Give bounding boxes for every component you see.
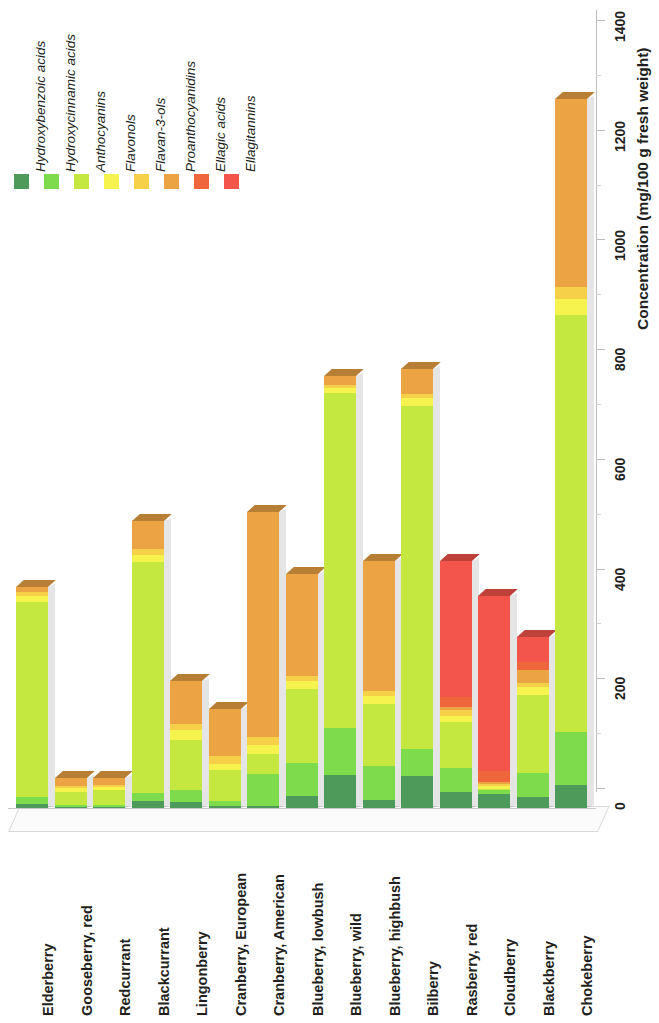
y-axis-tick [596,459,605,460]
y-axis-tick-label: 0 [612,802,628,810]
bar-segment [209,770,241,801]
bar-segment [286,763,318,796]
category-label: Redcurrant [117,939,133,1016]
bar-segment [324,376,356,385]
bar-segment [93,778,125,785]
bar-segment [401,749,433,776]
bar-segment [170,802,202,807]
bar-segment [286,574,318,676]
category-label: Cloudberry [502,939,518,1016]
bar-segment [55,778,87,786]
bar-segment [247,512,279,737]
bar[interactable] [247,512,279,808]
bar-segment [478,596,510,770]
y-axis-tick-label: 400 [612,567,628,590]
y-axis-tick [596,20,605,21]
bar[interactable] [286,574,318,808]
bar-segment [440,792,472,808]
bar-segment [170,724,202,731]
bar-segment [170,790,202,802]
bar-segment [517,687,549,695]
y-axis-tick-label: 200 [612,677,628,700]
bar-segment [517,695,549,773]
bar-segment [55,807,87,808]
bar-segment [555,732,587,785]
category-label: Rasberry, red [464,924,480,1016]
bar-segment [440,716,472,723]
bar-segment [363,696,395,704]
y-axis-tick [596,130,605,131]
bar-segment [517,797,549,808]
bar[interactable] [401,369,433,808]
bar-segment [16,602,48,797]
bar[interactable] [132,521,164,808]
bar-segment [93,790,125,804]
category-label: Bilberry [425,961,441,1016]
bar-segment [401,406,433,749]
bar-segment [170,740,202,790]
bar[interactable] [363,561,395,808]
bar-segment [324,775,356,808]
y-axis-tick [596,678,605,679]
bar-segment [93,807,125,808]
bar-segment [209,806,241,808]
y-axis-title: Concentration (mg/100 g fresh weight) [634,48,652,330]
bar[interactable] [478,596,510,808]
bar-segment [209,756,241,764]
bar-segment [555,315,587,732]
bar[interactable] [55,778,87,808]
bar-segment [170,730,202,740]
bar-top-face [517,630,557,637]
bar-side-face [587,96,594,808]
bar-segment [247,774,279,806]
category-label: Cranberry, American [271,874,287,1016]
category-label: Cranberry, European [233,873,249,1016]
bar[interactable] [517,637,549,808]
bar-segment [555,785,587,808]
bar-segment [517,662,549,670]
bar[interactable] [16,587,48,808]
y-axis-tick [596,569,605,570]
bar-top-face [132,514,172,521]
bar-segment [401,776,433,808]
category-label: Blackberry [541,941,557,1016]
y-axis-tick-label: 800 [612,348,628,371]
bar-segment [517,670,549,683]
bar-segment [247,737,279,746]
bar-segment [132,555,164,563]
category-label: Blackcurrant [156,927,172,1016]
bar-segment [517,637,549,662]
bar[interactable] [170,681,202,808]
bar-segment [555,299,587,315]
y-axis-tick-label: 600 [612,457,628,480]
bar-segment [132,521,164,550]
y-axis-minor-tick [596,185,601,186]
y-axis-tick [596,239,605,240]
bar[interactable] [440,561,472,808]
bar-segment [209,764,241,771]
bar-segment [440,768,472,791]
category-label: Blueberry, lowbush [310,883,326,1016]
bar-segment [363,800,395,808]
y-axis-minor-tick [596,733,601,734]
bar-segment [478,771,510,782]
bar[interactable] [93,778,125,808]
y-axis-line [596,10,597,792]
bar-segment [555,287,587,299]
bar[interactable] [324,376,356,808]
bar-segment [286,689,318,763]
bar-segment [440,722,472,768]
y-axis-minor-tick [596,294,601,295]
chart-baseline [8,808,596,809]
y-axis: 0200400600800100012001400 [596,20,598,820]
y-axis-tick [596,349,605,350]
y-axis-tick-label: 1200 [612,121,628,152]
bar-side-face [48,584,55,808]
y-axis-minor-tick [596,75,601,76]
bar-segment [209,709,241,756]
category-label: Blueberry, highbush [387,876,403,1016]
bar[interactable] [209,709,241,808]
y-axis-tick-label: 1400 [612,11,628,42]
bar-segment [16,804,48,808]
bar[interactable] [555,99,587,808]
